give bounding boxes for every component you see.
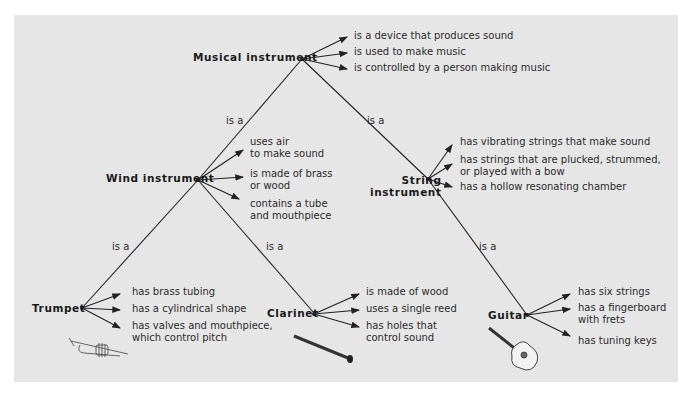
attribute-text: is made of brass or wood (250, 168, 333, 192)
relation-label: is a (367, 115, 384, 126)
attribute-text: uses a single reed (366, 303, 457, 315)
attribute-text: has strings that are plucked, strummed, … (460, 154, 661, 178)
attribute-text: is a device that produces sound (354, 30, 513, 42)
node-string-instrument: String instrument (370, 174, 442, 198)
node-clarinet: Clarinet (267, 307, 319, 319)
attribute-text: has tuning keys (578, 335, 657, 347)
attribute-text: has a hollow resonating chamber (460, 181, 626, 193)
attribute-text: has a cylindrical shape (132, 303, 246, 315)
attribute-text: contains a tube and mouthpiece (250, 198, 331, 222)
attribute-text: has valves and mouthpiece, which control… (132, 320, 273, 344)
attribute-text: has a fingerboard with frets (578, 302, 666, 326)
attribute-text: has holes that control sound (366, 320, 437, 344)
relation-label: is a (112, 241, 129, 252)
relation-label: is a (266, 241, 283, 252)
attribute-text: has vibrating strings that make sound (460, 136, 650, 148)
attribute-text: has brass tubing (132, 286, 215, 298)
clarinet-icon (294, 336, 353, 363)
attribute-text: uses air to make sound (250, 136, 324, 160)
relation-label: is a (226, 115, 243, 126)
trumpet-icon (69, 338, 128, 357)
attribute-text: is used to make music (354, 46, 466, 58)
attribute-text: is made of wood (366, 286, 448, 298)
node-musical-instrument: Musical instrument (193, 51, 318, 63)
node-trumpet: Trumpet (32, 302, 85, 314)
relation-label: is a (479, 241, 496, 252)
guitar-icon (489, 328, 538, 370)
attribute-text: has six strings (578, 286, 650, 298)
attribute-text: is controlled by a person making music (354, 62, 550, 74)
node-guitar: Guitar (488, 309, 529, 321)
node-wind-instrument: Wind instrument (106, 172, 214, 184)
